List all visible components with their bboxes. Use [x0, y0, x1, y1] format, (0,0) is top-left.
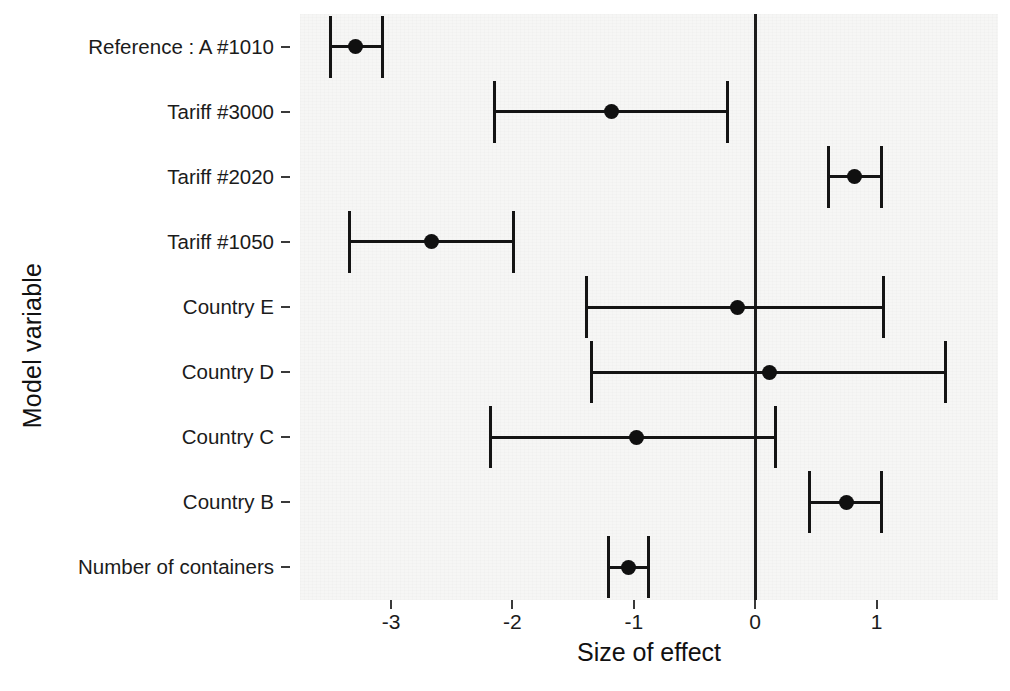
estimate-point-marker	[348, 39, 363, 54]
x-axis-tick-mark	[754, 600, 756, 609]
y-axis-tick-label-text: Tariff #1050	[167, 230, 274, 254]
y-axis-tick-label: Number of containers	[78, 555, 290, 579]
y-axis-tick-mark	[281, 566, 290, 568]
y-axis-tick-label: Tariff #1050	[167, 230, 290, 254]
ci-upper-cap	[726, 81, 729, 143]
error-bar-row	[300, 210, 998, 274]
error-bar-row	[300, 340, 998, 404]
y-axis-tick-label-text: Tariff #2020	[167, 165, 274, 189]
y-axis-tick-labels: Reference : A #1010Tariff #3000Tariff #2…	[58, 0, 290, 691]
x-axis-tick-label: -1	[624, 610, 643, 634]
x-axis-tick-mark	[390, 600, 392, 609]
y-axis-tick-label: Country E	[183, 295, 290, 319]
y-axis-tick-label-text: Number of containers	[78, 555, 274, 579]
error-bar-row	[300, 405, 998, 469]
y-axis-tick-label-text: Country B	[183, 490, 274, 514]
y-axis-tick-label-text: Country E	[183, 295, 274, 319]
y-axis-tick-mark	[281, 111, 290, 113]
forest-plot-figure: Model variable Reference : A #1010Tariff…	[0, 0, 1010, 691]
x-axis-tick-label: -3	[382, 610, 401, 634]
estimate-point-marker	[629, 430, 644, 445]
ci-lower-cap	[808, 471, 811, 533]
y-axis-tick-mark	[281, 371, 290, 373]
error-bar-row	[300, 80, 998, 144]
estimate-point-marker	[762, 365, 777, 380]
error-bar-row	[300, 275, 998, 339]
ci-upper-cap	[944, 341, 947, 403]
error-bar-row	[300, 470, 998, 534]
y-axis-tick-mark	[281, 436, 290, 438]
error-bar-row	[300, 15, 998, 79]
y-axis-tick-label-text: Tariff #3000	[167, 100, 274, 124]
x-axis-tick-mark	[876, 600, 878, 609]
y-axis-tick-mark	[281, 306, 290, 308]
plot-panel	[300, 14, 998, 600]
y-axis-tick-label: Reference : A #1010	[88, 35, 290, 59]
y-axis-tick-label: Country D	[182, 360, 290, 384]
ci-upper-cap	[880, 471, 883, 533]
estimate-point-marker	[730, 300, 745, 315]
y-axis-tick-mark	[281, 46, 290, 48]
y-axis-tick-label: Tariff #3000	[167, 100, 290, 124]
error-bar-row	[300, 145, 998, 209]
x-axis-tick-mark	[633, 600, 635, 609]
x-axis-title: Size of effect	[300, 638, 998, 667]
y-axis-tick-label: Tariff #2020	[167, 165, 290, 189]
x-axis-tick-label: 0	[749, 610, 761, 634]
y-axis-tick-label-text: Country D	[182, 360, 274, 384]
ci-lower-cap	[590, 341, 593, 403]
ci-upper-cap	[882, 276, 885, 338]
estimate-point-marker	[847, 169, 862, 184]
ci-upper-cap	[774, 406, 777, 468]
ci-lower-cap	[607, 536, 610, 598]
ci-upper-cap	[381, 16, 384, 78]
estimate-point-marker	[424, 234, 439, 249]
estimate-point-marker	[604, 104, 619, 119]
ci-upper-cap	[512, 211, 515, 273]
x-axis: -3-2-101	[300, 600, 998, 640]
y-axis-tick-mark	[281, 501, 290, 503]
ci-lower-cap	[493, 81, 496, 143]
ci-upper-cap	[880, 146, 883, 208]
ci-upper-cap	[647, 536, 650, 598]
error-bar-row	[300, 535, 998, 599]
x-axis-tick-mark	[511, 600, 513, 609]
ci-lower-cap	[329, 16, 332, 78]
y-axis-tick-label: Country C	[182, 425, 290, 449]
y-axis-tick-label-text: Reference : A #1010	[88, 35, 274, 59]
x-axis-tick-label: -2	[503, 610, 522, 634]
y-axis-tick-label-text: Country C	[182, 425, 274, 449]
ci-lower-cap	[489, 406, 492, 468]
estimate-point-marker	[839, 495, 854, 510]
y-axis-tick-mark	[281, 176, 290, 178]
ci-lower-cap	[348, 211, 351, 273]
y-axis-title: Model variable	[0, 0, 64, 691]
ci-lower-cap	[585, 276, 588, 338]
x-axis-tick-label: 1	[871, 610, 883, 634]
estimate-point-marker	[621, 560, 636, 575]
ci-lower-cap	[827, 146, 830, 208]
y-axis-tick-label: Country B	[183, 490, 290, 514]
y-axis-tick-mark	[281, 241, 290, 243]
